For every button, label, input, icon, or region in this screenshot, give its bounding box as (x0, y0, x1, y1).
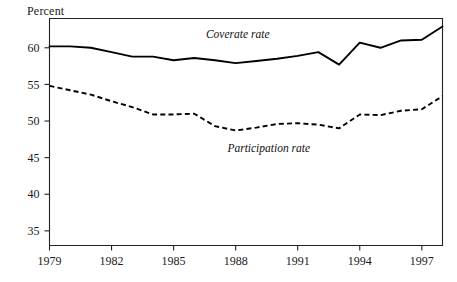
y-tick-label: 40 (28, 187, 40, 201)
y-tick-label: 60 (28, 41, 40, 55)
x-tick-label: 1994 (348, 254, 372, 268)
annotation-coverate-rate: Coverate rate (206, 28, 270, 40)
axis-frame (50, 19, 443, 246)
x-tick-label: 1982 (100, 254, 124, 268)
x-tick-label: 1985 (162, 254, 186, 268)
x-tick-label: 1997 (410, 254, 434, 268)
series-line-participation-rate (50, 86, 443, 131)
annotation-participation-rate: Participation rate (226, 142, 310, 155)
y-tick-label: 35 (28, 224, 40, 238)
y-axis-ticks: 354045505560 (28, 41, 50, 238)
y-tick-label: 45 (28, 151, 40, 165)
y-tick-label: 50 (28, 114, 40, 128)
x-tick-label: 1988 (224, 254, 248, 268)
series-annotations: Coverate rateParticipation rate (206, 28, 310, 155)
plot-border (50, 19, 443, 246)
series-group (50, 27, 443, 131)
x-axis-ticks: 1979198219851988199119941997 (38, 246, 434, 268)
x-tick-label: 1991 (286, 254, 310, 268)
x-tick-label: 1979 (38, 254, 62, 268)
y-tick-label: 55 (28, 78, 40, 92)
chart-page: Percent 354045505560 1979198219851988199… (0, 0, 457, 282)
line-chart: 354045505560 197919821985198819911994199… (0, 0, 457, 282)
